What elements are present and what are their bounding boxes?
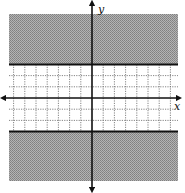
- y-axis-label: y: [97, 3, 105, 16]
- x-axis-label: x: [174, 100, 181, 113]
- inequality-graph: x y: [0, 0, 185, 193]
- shaded-region-above: [9, 14, 178, 64]
- shaded-region-below: [9, 132, 178, 181]
